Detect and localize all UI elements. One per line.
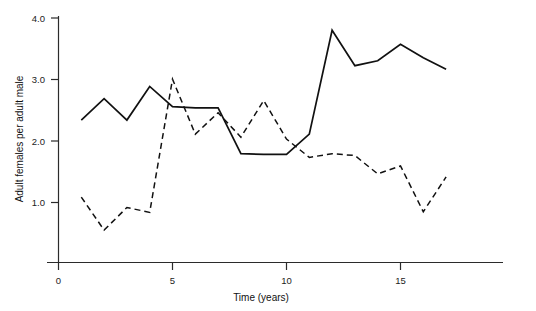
x-tick-label-5: 5 <box>170 275 175 286</box>
line-chart: 4.0 3.0 2.0 1.0 0 5 10 15 Time (years) A… <box>0 0 536 311</box>
y-tick-label-4: 4.0 <box>32 13 45 24</box>
x-axis-title: Time (years) <box>233 292 289 303</box>
x-tick-label-10: 10 <box>281 275 292 286</box>
y-tick-label-2: 2.0 <box>32 136 45 147</box>
chart-plot-area: 4.0 3.0 2.0 1.0 0 5 10 15 Time (years) A… <box>0 0 536 311</box>
y-tick-label-1: 1.0 <box>32 197 45 208</box>
y-axis-title: Adult females per adult male <box>14 75 25 202</box>
x-tick-label-0: 0 <box>56 275 61 286</box>
series-line-solid <box>81 30 446 154</box>
x-tick-label-15: 15 <box>395 275 406 286</box>
y-tick-label-3: 3.0 <box>32 74 45 85</box>
